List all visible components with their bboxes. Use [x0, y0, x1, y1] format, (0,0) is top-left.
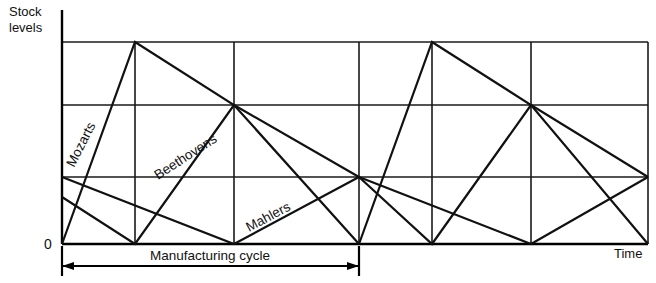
cycle-arrowhead-left: [62, 262, 74, 270]
x-axis-title: Time: [614, 246, 642, 261]
y-axis-title-line1: Stock: [9, 4, 42, 19]
series-line-mahlers-cycle1: [62, 177, 359, 244]
chart-page: Mozarts Beethovens Mahlers Stock levels …: [0, 0, 656, 283]
cycle-arrowhead-right: [347, 262, 359, 270]
manufacturing-cycle-annotation: Manufacturing cycle: [62, 246, 359, 276]
chart-grid: [62, 42, 648, 244]
series-line-mahlers-cycle2: [359, 177, 648, 244]
y-axis-title-line2: levels: [9, 20, 43, 35]
series-mahlers-path: [62, 177, 648, 244]
series-label-mozarts: Mozarts: [63, 120, 98, 170]
manufacturing-cycle-label: Manufacturing cycle: [150, 248, 270, 263]
series-beethovens-path: [62, 105, 648, 244]
stock-levels-chart: Mozarts Beethovens Mahlers Stock levels …: [0, 0, 656, 283]
chart-axes: [62, 10, 648, 244]
series-mozarts-path: [62, 42, 648, 244]
origin-label: 0: [44, 236, 52, 252]
series-line-beethovens-cycle1: [62, 105, 359, 244]
